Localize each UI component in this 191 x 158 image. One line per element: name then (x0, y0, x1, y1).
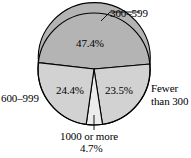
slice-label-fewer-than-300-line2: than 300 (151, 95, 188, 107)
slice-label-600-999: 600–999 (1, 92, 39, 104)
slice-value-fewer-than-300: 23.5% (105, 84, 133, 96)
slice-value-300-599: 47.4% (76, 37, 104, 49)
slice-label-fewer-than-300-line1: Fewer (151, 82, 178, 94)
slice-value-1000-or-more: 4.7% (80, 142, 103, 154)
slice-value-600-999: 24.4% (56, 84, 84, 96)
slice-label-300-599: 300–599 (110, 7, 148, 19)
pie-chart-figure: 300–599 Fewer than 300 600–999 1000 or m… (0, 0, 191, 158)
slice-label-1000-or-more: 1000 or more (60, 130, 118, 142)
